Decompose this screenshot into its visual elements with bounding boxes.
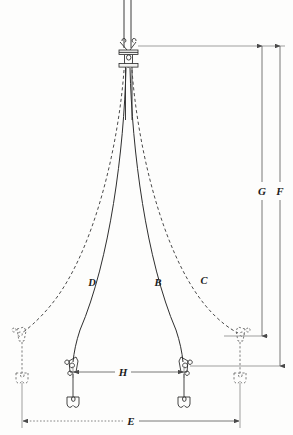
- dimension-f: F: [275, 46, 284, 366]
- dimension-extension-lines: [22, 46, 285, 428]
- stay-label-b: B: [153, 277, 161, 288]
- stay-label-d: D: [87, 277, 96, 288]
- dimension-g: G: [258, 46, 266, 336]
- dimension-label-e: E: [126, 415, 134, 427]
- inner-chainplate-starboard-fitting: [178, 357, 192, 407]
- dimension-label-g: G: [258, 185, 266, 197]
- dimension-label-h: H: [118, 366, 128, 378]
- outer-chainplate-port-fitting: [12, 327, 28, 383]
- shroud-b-starboard-inner: [130, 68, 183, 362]
- dimension-label-f: F: [275, 185, 284, 197]
- shroud-c-starboard-outer: [132, 70, 238, 333]
- rigging-diagram: G F H E D B C: [0, 0, 293, 435]
- shroud-port-outer: [22, 70, 124, 333]
- outer-chainplate-starboard-fitting: [234, 327, 250, 383]
- stay-label-c: C: [200, 275, 208, 286]
- dimension-e: E: [23, 415, 239, 427]
- dimension-h: H: [74, 366, 183, 378]
- inner-chainplate-port-fitting: [65, 357, 79, 407]
- diagram-canvas: G F H E D B C: [0, 0, 293, 435]
- shroud-d-port-inner: [73, 68, 126, 362]
- masthead-band-fitting: [119, 39, 138, 68]
